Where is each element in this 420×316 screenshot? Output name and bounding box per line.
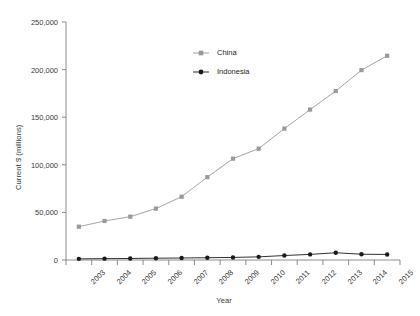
legend-marker-indonesia: [199, 70, 204, 75]
data-point-china: [180, 195, 184, 199]
legend-label-china: China: [217, 48, 237, 57]
data-point-china: [334, 89, 338, 93]
data-point-indonesia: [179, 256, 183, 260]
plot-area: [0, 0, 420, 316]
data-point-indonesia: [205, 256, 209, 260]
data-point-china: [385, 54, 389, 58]
legend-label-indonesia: Indonesia: [217, 67, 250, 76]
data-point-china: [231, 157, 235, 161]
data-point-china: [308, 107, 312, 111]
data-point-indonesia: [256, 255, 260, 259]
data-point-china: [77, 225, 81, 229]
data-point-indonesia: [128, 256, 132, 260]
data-point-indonesia: [334, 251, 338, 255]
data-point-indonesia: [102, 256, 106, 260]
data-point-china: [154, 206, 158, 210]
data-point-indonesia: [385, 252, 389, 256]
data-point-indonesia: [77, 257, 81, 261]
legend-marker-china: [199, 51, 204, 56]
line-chart: Current $ (millions) Year 050,000100,000…: [0, 0, 420, 316]
data-point-indonesia: [282, 253, 286, 257]
data-point-indonesia: [359, 252, 363, 256]
data-point-china: [257, 147, 261, 151]
series-line-china: [79, 56, 387, 227]
data-point-china: [128, 215, 132, 219]
data-point-indonesia: [154, 256, 158, 260]
data-point-indonesia: [231, 255, 235, 259]
data-point-indonesia: [308, 252, 312, 256]
data-point-china: [282, 127, 286, 131]
data-point-china: [102, 219, 106, 223]
data-point-china: [359, 68, 363, 72]
data-point-china: [205, 175, 209, 179]
